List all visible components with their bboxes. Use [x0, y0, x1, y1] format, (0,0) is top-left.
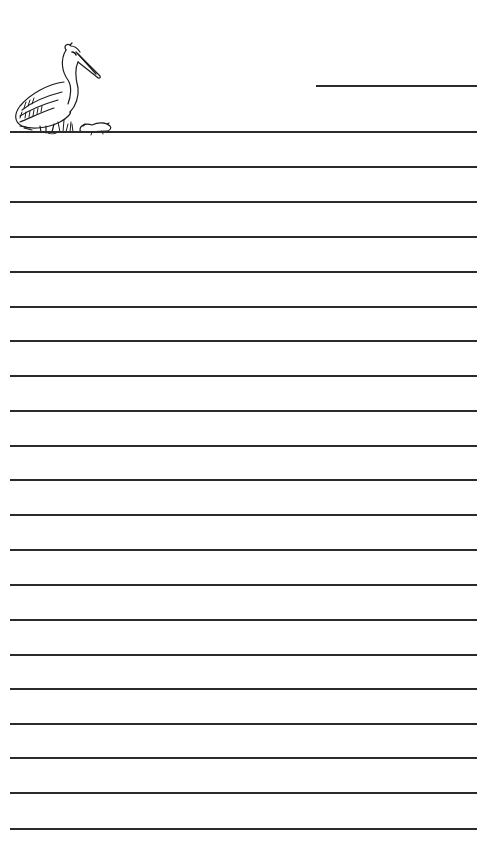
pelican-illustration-icon — [8, 40, 120, 136]
ruled-line-6 — [10, 306, 477, 308]
ruled-line-21 — [10, 828, 477, 830]
ruled-line-18 — [10, 723, 477, 725]
ruled-line-19 — [10, 757, 477, 759]
ruled-line-9 — [10, 410, 477, 412]
ruled-line-13 — [10, 549, 477, 551]
ruled-line-2 — [10, 166, 477, 168]
ruled-line-3 — [10, 201, 477, 203]
ruled-line-1 — [10, 131, 477, 133]
ruled-line-11 — [10, 479, 477, 481]
ruled-line-5 — [10, 271, 477, 273]
name-line — [316, 85, 477, 87]
ruled-line-8 — [10, 375, 477, 377]
ruled-line-10 — [10, 445, 477, 447]
ruled-line-16 — [10, 654, 477, 656]
ruled-line-14 — [10, 584, 477, 586]
ruled-line-7 — [10, 340, 477, 342]
ruled-line-17 — [10, 688, 477, 690]
ruled-line-12 — [10, 514, 477, 516]
ruled-line-15 — [10, 619, 477, 621]
lined-paper — [0, 0, 500, 863]
ruled-line-20 — [10, 792, 477, 794]
ruled-line-4 — [10, 236, 477, 238]
